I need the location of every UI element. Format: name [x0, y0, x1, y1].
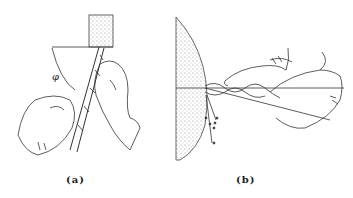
grinding-wheel-a: [89, 15, 113, 47]
grinding-wheel-b: [176, 17, 207, 160]
angle-phi-label: φ: [52, 71, 59, 82]
panel-b-caption: (b): [236, 174, 255, 185]
diagram-canvas: [0, 0, 353, 198]
panel-a-drawing: [18, 15, 140, 155]
panel-a-caption: (a): [66, 174, 85, 185]
panel-b-drawing: [176, 17, 344, 160]
